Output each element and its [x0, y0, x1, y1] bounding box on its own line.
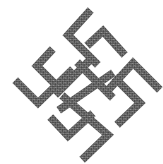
cross-stitch-canvas	[0, 0, 163, 164]
